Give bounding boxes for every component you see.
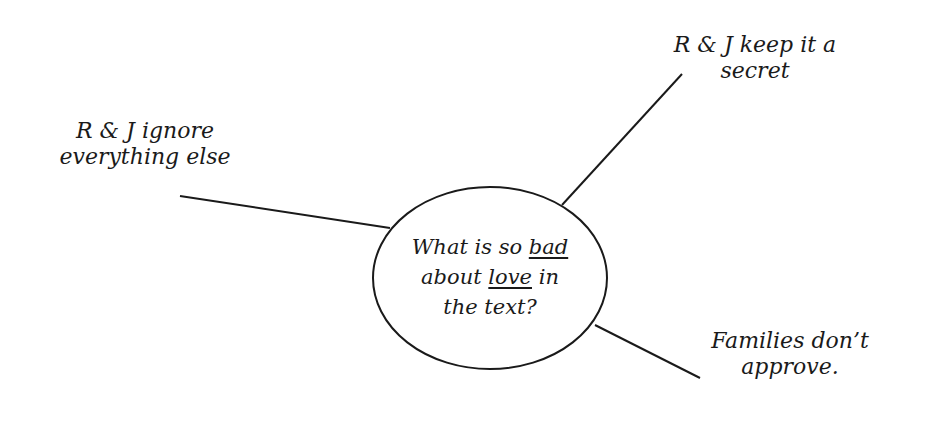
branch-keep-secret: R & J keep it a secret xyxy=(640,32,870,84)
underlined-love: love xyxy=(488,265,532,289)
connector-left xyxy=(180,196,390,228)
central-question: What is so bad about love in the text? xyxy=(373,232,607,322)
central-line-3: the text? xyxy=(373,292,607,322)
connector-top-right xyxy=(562,74,682,205)
underlined-bad: bad xyxy=(529,235,568,259)
central-line-1: What is so bad xyxy=(373,232,607,262)
branch-ignore-everything: R & J ignore everything else xyxy=(30,118,260,170)
branch-families-disapprove: Families don’t approve. xyxy=(675,328,905,380)
central-line-2: about love in xyxy=(373,262,607,292)
